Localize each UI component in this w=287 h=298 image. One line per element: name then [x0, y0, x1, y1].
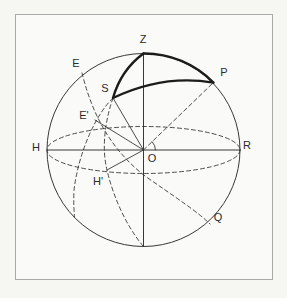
label-star: S: [101, 83, 108, 94]
label-equator-upper: E: [72, 58, 79, 69]
astronomical-triangle: [113, 53, 213, 98]
radius-O-S: [113, 98, 144, 150]
page-background: Z E P S E' H O R H' Q: [0, 0, 287, 298]
diagram-lines: [47, 53, 240, 246]
label-horizon-foot: H': [93, 176, 103, 187]
hour-circle-bold-arc-SP: [113, 80, 213, 98]
label-horizon-right: R: [243, 140, 251, 151]
label-equator-foot: E': [79, 110, 88, 121]
label-equator-lower: Q: [214, 212, 223, 223]
polar-axis-line: [144, 83, 214, 150]
radius-O-Eprime: [95, 120, 144, 150]
label-zenith: Z: [140, 34, 147, 45]
meridian-bold-arc-ZP: [144, 53, 214, 82]
label-pole: P: [220, 67, 227, 78]
latitude-angle-arc: [152, 142, 155, 150]
radius-O-Hprime: [107, 150, 144, 170]
label-horizon-left: H: [32, 142, 40, 153]
equator-arc: [82, 73, 210, 224]
label-center: O: [148, 153, 157, 164]
